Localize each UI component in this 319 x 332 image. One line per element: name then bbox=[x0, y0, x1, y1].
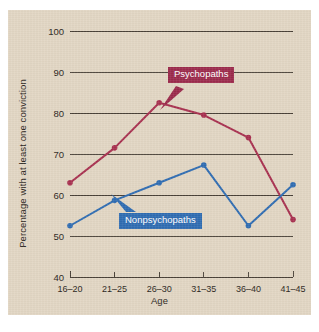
figure: 405060708090100 16–2021–2526–3031–3536–4… bbox=[0, 0, 319, 332]
y-tick-label: 100 bbox=[34, 26, 64, 37]
data-point bbox=[67, 180, 73, 186]
x-axis bbox=[70, 271, 293, 277]
y-tick-label: 40 bbox=[34, 272, 64, 283]
data-point bbox=[156, 180, 162, 186]
data-point bbox=[201, 112, 207, 118]
x-axis-title: Age bbox=[8, 295, 311, 306]
data-point bbox=[246, 135, 252, 141]
series-points bbox=[67, 100, 296, 229]
data-point bbox=[290, 217, 296, 223]
data-point bbox=[290, 182, 296, 188]
series-label-psychopaths: Psychopaths bbox=[168, 67, 234, 83]
data-point bbox=[67, 223, 73, 229]
callout-tails bbox=[111, 86, 184, 212]
y-tick-label: 80 bbox=[34, 108, 64, 119]
data-point bbox=[112, 145, 118, 151]
series-line-0 bbox=[70, 103, 293, 220]
data-point bbox=[156, 100, 162, 106]
y-axis-title: Percentage with at least one conviction bbox=[17, 64, 28, 264]
y-tick-label: 70 bbox=[34, 149, 64, 160]
gridlines bbox=[70, 31, 293, 236]
data-point bbox=[246, 223, 252, 229]
line-chart-plot bbox=[8, 10, 311, 315]
series-label-nonpsychopaths: Nonpsychopaths bbox=[119, 213, 202, 229]
data-point bbox=[201, 162, 207, 168]
y-tick-label: 90 bbox=[34, 67, 64, 78]
x-tick-label: 41–45 bbox=[266, 284, 319, 294]
series-lines bbox=[70, 103, 293, 226]
y-tick-label: 50 bbox=[34, 231, 64, 242]
chart-panel: 405060708090100 16–2021–2526–3031–3536–4… bbox=[8, 10, 311, 315]
y-tick-label: 60 bbox=[34, 190, 64, 201]
